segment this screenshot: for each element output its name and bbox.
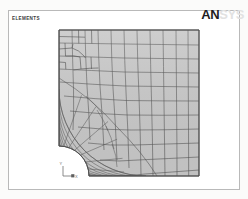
ansys-logo-dark: AN bbox=[201, 7, 219, 22]
plot-title: ELEMENTS bbox=[12, 16, 40, 21]
ansys-mesh-screenshot: ELEMENTS ANSYS bbox=[0, 0, 248, 199]
graphics-window-frame bbox=[8, 10, 240, 190]
ansys-logo-light: SYS bbox=[219, 7, 244, 22]
ansys-logo: ANSYS bbox=[201, 8, 244, 21]
